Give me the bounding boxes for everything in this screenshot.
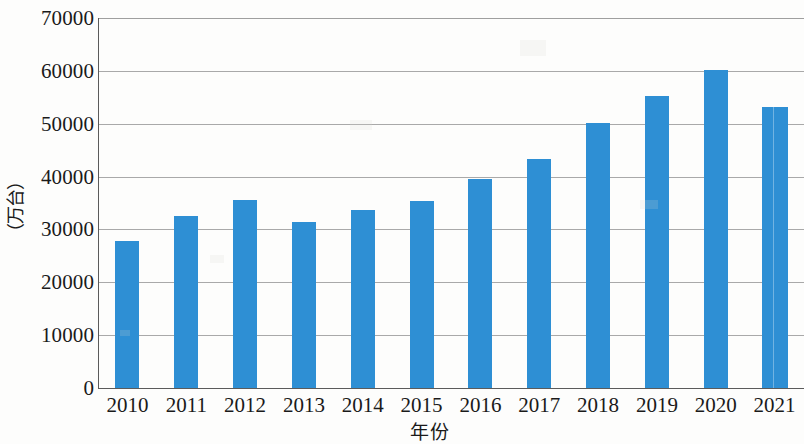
bar-2011 [174,216,198,388]
scan-artifact [640,200,658,209]
bar-2019 [645,96,669,388]
bar-2010 [115,241,139,388]
y-tick-label-70000: 70000 [2,8,94,29]
y-tick-label-20000: 20000 [2,272,94,293]
gridline-10000 [98,335,804,336]
gridline-30000 [98,229,804,230]
x-axis-title: 年份 [0,417,804,444]
scan-artifact [120,330,130,336]
bar-2018 [586,123,610,388]
bar-2012 [233,200,257,388]
scan-artifact [210,255,224,263]
bar-2015 [410,201,434,388]
gridline-20000 [98,282,804,283]
gridline-40000 [98,177,804,178]
x-axis-line [98,388,804,389]
y-tick-label-30000: 30000 [2,219,94,240]
y-axis-line [98,18,99,389]
bar-2017 [527,159,551,388]
bar-2016 [468,179,492,388]
bar-2020 [704,70,728,388]
scan-artifact [350,120,372,130]
x-axis-title-text: 年份 [410,421,450,443]
bar-2013 [292,222,316,389]
y-axis-tick-labels: 010000200003000040000500006000070000 [0,0,94,444]
gridline-60000 [98,71,804,72]
y-tick-label-10000: 10000 [2,325,94,346]
bar-2014 [351,210,375,388]
y-tick-label-50000: 50000 [2,113,94,134]
bar-2021 [762,107,788,388]
y-tick-label-60000: 60000 [2,60,94,81]
scan-artifact [520,40,546,56]
chart-page: （万台） 01000020000300004000050000600007000… [0,0,804,444]
gridline-50000 [98,124,804,125]
x-tick-label-2021: 2021 [740,392,804,418]
y-tick-label-40000: 40000 [2,166,94,187]
gridline-70000 [98,18,804,19]
plot-area [98,18,804,388]
